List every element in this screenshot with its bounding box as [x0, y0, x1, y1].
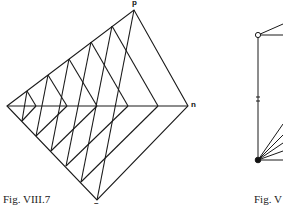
vertex-label-p: p — [132, 0, 137, 7]
diagram-right — [255, 24, 283, 163]
filled-node — [255, 157, 261, 163]
caption-right: Fig. V — [254, 193, 282, 205]
open-node — [255, 32, 260, 37]
vertex-label-n: n — [191, 100, 196, 109]
caption-left: Fig. VIII.7 — [3, 193, 50, 205]
vertex-label-bottom: – — [94, 198, 98, 207]
diagram-left — [0, 0, 283, 207]
outer-frame — [7, 10, 188, 200]
